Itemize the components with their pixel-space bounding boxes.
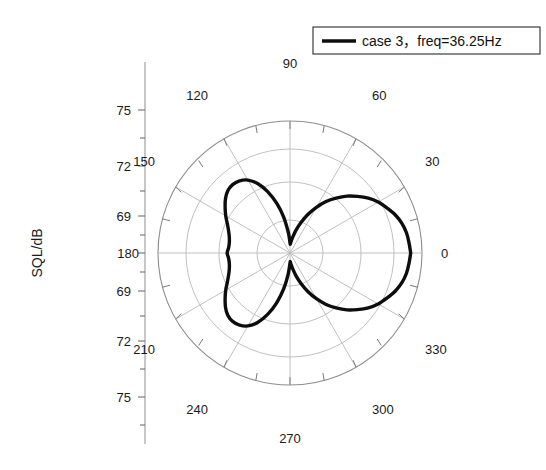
radial-label-72-lower: 72 bbox=[117, 334, 131, 349]
radial-label-69-lower: 69 bbox=[117, 284, 131, 299]
angle-label-210: 210 bbox=[133, 342, 155, 357]
polar-chart-figure: 75 72 69 69 72 75 SQL/dB 0 30 60 90 120 … bbox=[0, 0, 546, 470]
radial-label-75-upper: 75 bbox=[117, 103, 131, 118]
angle-label-30: 30 bbox=[425, 154, 439, 169]
angle-label-270: 270 bbox=[279, 431, 301, 446]
angle-label-150: 150 bbox=[133, 154, 155, 169]
angle-label-330: 330 bbox=[425, 342, 447, 357]
angle-label-90: 90 bbox=[283, 56, 297, 71]
angle-label-300: 300 bbox=[372, 402, 394, 417]
angle-label-0: 0 bbox=[441, 246, 448, 261]
radial-label-69-upper: 69 bbox=[117, 209, 131, 224]
angle-label-60: 60 bbox=[372, 88, 386, 103]
figure-background bbox=[0, 0, 546, 470]
radial-label-72-upper: 72 bbox=[117, 159, 131, 174]
angle-label-240: 240 bbox=[186, 402, 208, 417]
legend-entry-label: case 3，freq=36.25Hz bbox=[362, 33, 502, 49]
angle-label-120: 120 bbox=[186, 88, 208, 103]
legend[interactable]: case 3，freq=36.25Hz bbox=[313, 27, 540, 54]
radial-axis-title: SQL/dB bbox=[29, 228, 45, 277]
radial-label-75-lower: 75 bbox=[117, 390, 131, 405]
angle-label-180: 180 bbox=[117, 246, 139, 261]
